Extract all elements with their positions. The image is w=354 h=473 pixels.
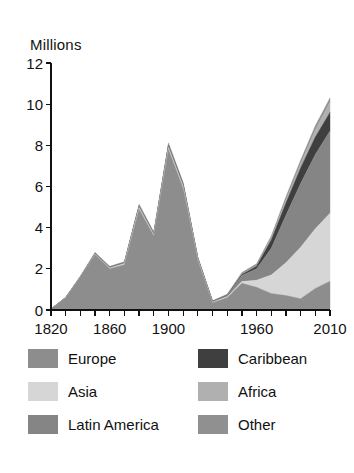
x-tick-label: 1900 xyxy=(152,320,185,337)
legend-swatch-icon xyxy=(28,382,58,401)
legend-column-left: EuropeAsiaLatin America xyxy=(28,342,188,441)
legend-label: Europe xyxy=(68,351,116,366)
y-tick-label: 6 xyxy=(35,178,43,195)
legend-swatch-icon xyxy=(198,382,228,401)
stacked-area-svg: 024681012 18201860190019602010 xyxy=(0,0,354,340)
legend-swatch-icon xyxy=(198,349,228,368)
x-tick-label: 1960 xyxy=(240,320,273,337)
area-series-group xyxy=(51,98,330,310)
plot-area: 024681012 18201860190019602010 xyxy=(0,0,354,340)
legend-item[interactable]: Caribbean xyxy=(198,342,348,374)
x-tick-group: 18201860190019602010 xyxy=(34,310,346,337)
legend-label: Latin America xyxy=(68,417,159,432)
legend-column-right: CaribbeanAfricaOther xyxy=(198,342,348,441)
legend-label: Africa xyxy=(238,384,276,399)
y-tick-group: 024681012 xyxy=(26,55,51,319)
legend-label: Other xyxy=(238,417,276,432)
legend-label: Caribbean xyxy=(238,351,307,366)
y-tick-label: 0 xyxy=(35,302,43,319)
y-tick-label: 2 xyxy=(35,260,43,277)
legend-label: Asia xyxy=(68,384,97,399)
legend-item[interactable]: Latin America xyxy=(28,408,188,440)
x-tick-label: 1820 xyxy=(34,320,67,337)
legend-item[interactable]: Europe xyxy=(28,342,188,374)
chart-legend: EuropeAsiaLatin America CaribbeanAfricaO… xyxy=(0,342,354,452)
legend-item[interactable]: Africa xyxy=(198,375,348,407)
legend-swatch-icon xyxy=(28,349,58,368)
x-tick-label: 2010 xyxy=(313,320,346,337)
legend-item[interactable]: Asia xyxy=(28,375,188,407)
immigration-stacked-area-figure: Millions 024681012 18201860190019602010 … xyxy=(0,0,354,473)
y-tick-label: 10 xyxy=(26,96,43,113)
legend-swatch-icon xyxy=(198,415,228,434)
y-tick-label: 4 xyxy=(35,219,43,236)
legend-swatch-icon xyxy=(28,415,58,434)
y-tick-label: 8 xyxy=(35,137,43,154)
legend-item[interactable]: Other xyxy=(198,408,348,440)
x-tick-label: 1860 xyxy=(93,320,126,337)
y-tick-label: 12 xyxy=(26,55,43,72)
